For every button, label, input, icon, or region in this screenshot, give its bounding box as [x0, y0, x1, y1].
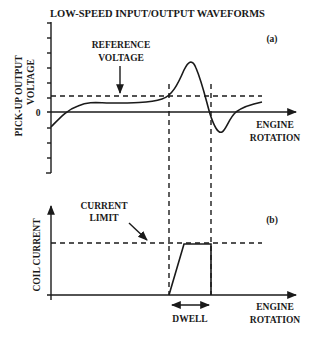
- panel-a-tag: (a): [266, 34, 277, 45]
- current-limit-label-line2: LIMIT: [89, 213, 119, 223]
- panel-b-x-label-line1: ENGINE: [256, 302, 293, 312]
- pickup-voltage-waveform: [51, 62, 262, 132]
- current-limit-label-line1: CURRENT: [81, 201, 129, 211]
- panel-b-x-label-line2: ROTATION: [250, 315, 300, 325]
- panel-a-x-label-line2: ROTATION: [250, 133, 300, 143]
- reference-voltage-label-line1: REFERENCE: [92, 40, 151, 50]
- reference-voltage-label-line2: VOLTAGE: [98, 53, 144, 63]
- waveform-diagram: LOW-SPEED INPUT/OUTPUT WAVEFORMS 0 PICK-…: [0, 0, 310, 339]
- diagram-title: LOW-SPEED INPUT/OUTPUT WAVEFORMS: [50, 8, 265, 19]
- current-limit-arrow: [129, 223, 147, 240]
- panel-a: 0 PICK-UP OUTPUT VOLTAGE (a) REFERENCE V…: [14, 22, 300, 173]
- panel-a-y-label-line2: VOLTAGE: [26, 59, 36, 105]
- panel-a-x-label-line1: ENGINE: [256, 120, 293, 130]
- dwell-label: DWELL: [172, 314, 207, 324]
- panel-b-tag: (b): [266, 215, 278, 226]
- panel-b-y-label: COIL CURRENT: [32, 218, 42, 292]
- zero-label: 0: [36, 108, 41, 118]
- panel-b: COIL CURRENT (b) CURRENT LIMIT DWELL ENG…: [32, 201, 300, 325]
- panel-a-y-label-line1: PICK-UP OUTPUT: [14, 55, 24, 137]
- coil-current-waveform: [169, 244, 211, 295]
